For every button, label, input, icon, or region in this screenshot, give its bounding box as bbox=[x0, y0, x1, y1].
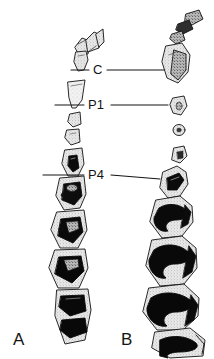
callout-label-p1: P1 bbox=[88, 98, 104, 111]
panel-label-a: A bbox=[13, 331, 25, 348]
tooth-row-illustration bbox=[0, 0, 214, 359]
panel-label-b: B bbox=[121, 331, 133, 348]
specimen-b-p2 bbox=[173, 125, 185, 136]
specimen-b-m3 bbox=[143, 284, 199, 330]
callout-label-c: C bbox=[93, 63, 103, 76]
callout-label-p4: P4 bbox=[88, 168, 104, 181]
figure-plate: C P1 P4 A B bbox=[0, 0, 214, 359]
